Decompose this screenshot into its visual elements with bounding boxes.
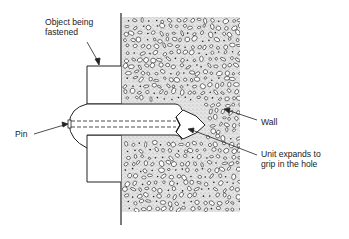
pin-head-dome [69,104,87,148]
label-object-being-fastened: Object being fastened [45,17,93,37]
label-unit-line1: Unit expands to [261,149,321,159]
label-object-line2: fastened [45,27,93,37]
leader-object-arrowhead [95,58,100,65]
label-wall: Wall [261,117,277,127]
label-pin: Pin [15,129,27,139]
label-unit-expands: Unit expands to grip in the hole [261,149,321,169]
object-lower-part [87,135,121,182]
leader-pin-arrowhead [62,122,68,127]
object-upper-part [87,66,121,104]
leader-pin [34,125,64,134]
label-unit-line2: grip in the hole [261,159,321,169]
diagram: Object being fastened Pin Wall Unit expa… [0,0,349,239]
label-object-line1: Object being [45,17,93,27]
